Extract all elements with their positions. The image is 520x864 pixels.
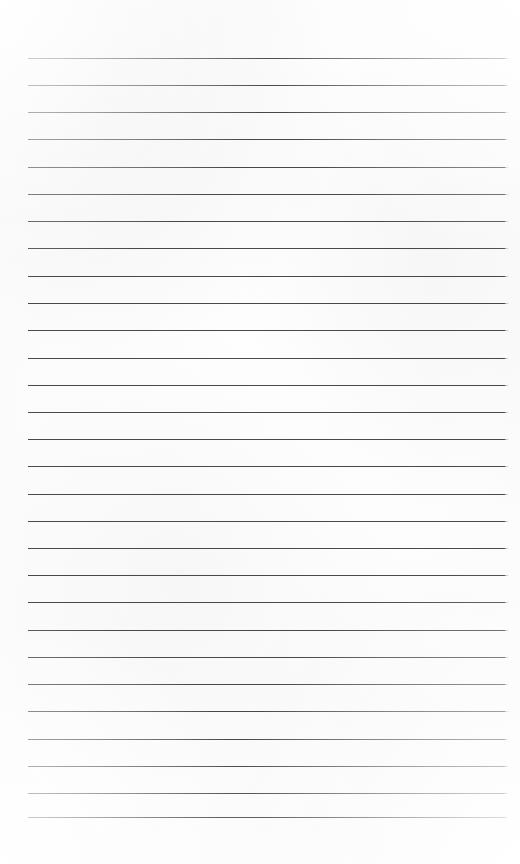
writing-area[interactable] xyxy=(28,40,505,830)
notepad-page xyxy=(0,0,520,864)
